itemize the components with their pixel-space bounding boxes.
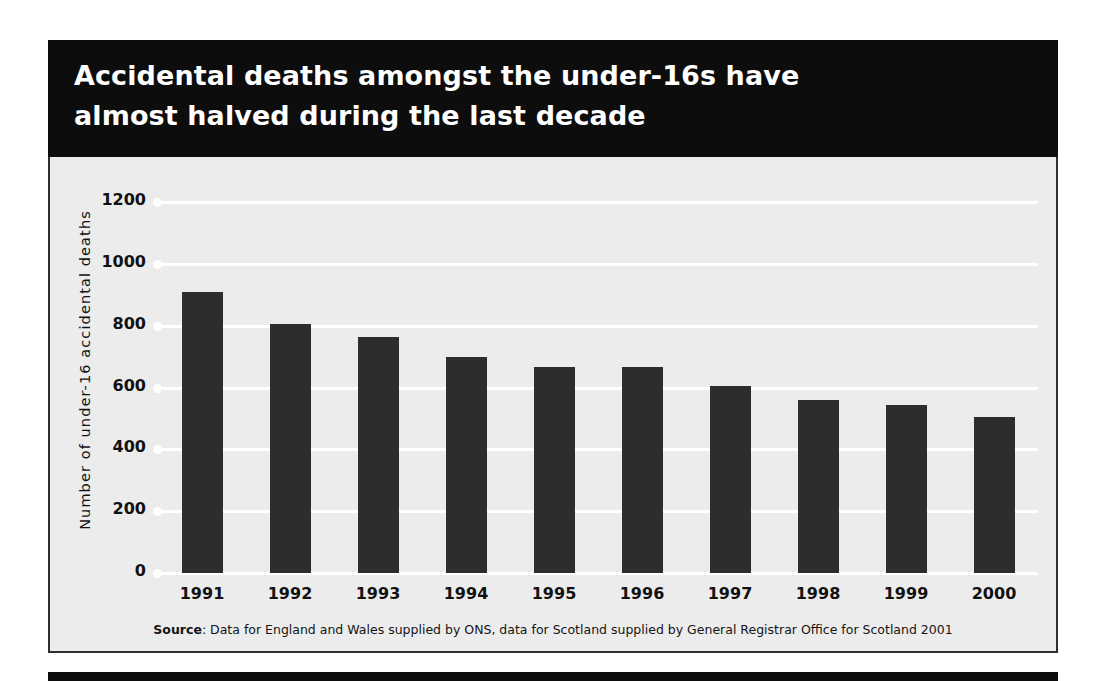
bar[interactable]: [798, 400, 839, 573]
x-axis-tick-label: 1997: [686, 584, 774, 603]
bars-group: 1991199219931994199519961997199819992000: [158, 202, 1038, 573]
bar-slot: 1992: [246, 202, 334, 573]
y-axis-tick-label: 1200: [101, 190, 146, 209]
x-axis-tick-label: 1993: [334, 584, 422, 603]
page-title-line-2: almost halved during the last decade: [74, 96, 1058, 136]
bar-slot: 1997: [686, 202, 774, 573]
bar[interactable]: [974, 417, 1015, 573]
infographic-page: Accidental deaths amongst the under-16s …: [0, 0, 1099, 681]
bar[interactable]: [182, 292, 223, 573]
x-axis-tick-label: 1996: [598, 584, 686, 603]
bar[interactable]: [886, 405, 927, 573]
title-band: Accidental deaths amongst the under-16s …: [48, 40, 1058, 157]
x-axis-tick-label: 1998: [774, 584, 862, 603]
bar-slot: 1994: [422, 202, 510, 573]
bar[interactable]: [270, 324, 311, 573]
y-axis-tick-label: 1000: [101, 252, 146, 271]
source-note: Source: Data for England and Wales suppl…: [50, 622, 1056, 637]
y-axis-tick-label: 200: [113, 499, 146, 518]
x-axis-tick-label: 2000: [950, 584, 1038, 603]
y-axis-tick-label: 0: [135, 561, 146, 580]
source-text: : Data for England and Wales supplied by…: [202, 622, 953, 637]
bar[interactable]: [534, 367, 575, 573]
bar-slot: 1999: [862, 202, 950, 573]
bar-slot: 1995: [510, 202, 598, 573]
chart-panel: Number of under-16 accidental deaths 120…: [48, 157, 1058, 653]
x-axis-tick-label: 1999: [862, 584, 950, 603]
bar[interactable]: [358, 337, 399, 574]
bar[interactable]: [446, 357, 487, 573]
bar-slot: 2000: [950, 202, 1038, 573]
bar-slot: 1996: [598, 202, 686, 573]
bar-slot: 1991: [158, 202, 246, 573]
page-title-line-1: Accidental deaths amongst the under-16s …: [74, 56, 1058, 96]
bar[interactable]: [710, 386, 751, 573]
bar-slot: 1998: [774, 202, 862, 573]
x-axis-tick-label: 1995: [510, 584, 598, 603]
y-axis-title: Number of under-16 accidental deaths: [77, 190, 93, 550]
x-axis-tick-label: 1991: [158, 584, 246, 603]
y-axis-tick-label: 800: [113, 314, 146, 333]
x-axis-tick-label: 1992: [246, 584, 334, 603]
bottom-band: [48, 672, 1058, 681]
source-label: Source: [153, 622, 202, 637]
y-axis-tick-label: 600: [113, 376, 146, 395]
bar-slot: 1993: [334, 202, 422, 573]
x-axis-tick-label: 1994: [422, 584, 510, 603]
plot-wrapper: Number of under-16 accidental deaths 120…: [50, 157, 1056, 651]
bar[interactable]: [622, 367, 663, 573]
y-axis-tick-label: 400: [113, 437, 146, 456]
plot-area: 120010008006004002000 199119921993199419…: [158, 202, 1038, 573]
